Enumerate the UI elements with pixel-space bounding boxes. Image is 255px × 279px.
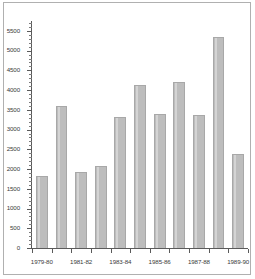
y-axis-minor-tick — [29, 23, 32, 24]
y-axis-tick-label: 3000 — [7, 126, 20, 132]
y-axis-minor-tick — [29, 94, 32, 95]
y-axis-tick — [27, 189, 32, 190]
y-axis-minor-tick — [29, 165, 32, 166]
bar — [114, 117, 126, 248]
y-axis-minor-tick — [29, 82, 32, 83]
y-axis-tick-label: 5000 — [7, 47, 20, 53]
bar — [193, 115, 205, 248]
x-axis-tick — [52, 249, 53, 253]
y-axis-minor-tick — [29, 74, 32, 75]
y-axis-minor-tick — [29, 181, 32, 182]
bar — [232, 154, 244, 248]
x-axis-tick-label: 1981-82 — [61, 259, 101, 265]
y-axis-tick — [27, 209, 32, 210]
y-axis-tick-label: 1000 — [7, 205, 20, 211]
x-axis-tick — [71, 249, 72, 253]
y-axis-minor-tick — [29, 232, 32, 233]
y-axis-minor-tick — [29, 216, 32, 217]
y-axis-minor-tick — [29, 197, 32, 198]
y-axis-minor-tick — [29, 145, 32, 146]
y-axis-minor-tick — [29, 66, 32, 67]
x-axis-tick — [169, 249, 170, 253]
y-axis-minor-tick — [29, 161, 32, 162]
y-axis-tick-label: 4500 — [7, 67, 20, 73]
y-axis-tick-label: 2000 — [7, 166, 20, 172]
y-axis-minor-tick — [29, 201, 32, 202]
y-axis-minor-tick — [29, 59, 32, 60]
y-axis-minor-tick — [29, 55, 32, 56]
y-axis-tick — [27, 130, 32, 131]
y-axis-minor-tick — [29, 98, 32, 99]
x-axis-tick — [91, 249, 92, 253]
y-axis-minor-tick — [29, 43, 32, 44]
bar — [134, 85, 146, 248]
y-axis-minor-tick — [29, 114, 32, 115]
y-axis-minor-tick — [29, 137, 32, 138]
y-axis-minor-tick — [29, 224, 32, 225]
y-axis-tick — [27, 228, 32, 229]
x-axis-tick — [209, 249, 210, 253]
x-axis-tick — [32, 249, 33, 253]
y-axis-minor-tick — [29, 205, 32, 206]
x-axis-line — [31, 248, 248, 249]
y-axis-tick — [27, 169, 32, 170]
y-axis-tick — [27, 149, 32, 150]
y-axis-minor-tick — [29, 62, 32, 63]
y-axis-minor-tick — [29, 185, 32, 186]
y-axis-tick-label: 500 — [10, 225, 20, 231]
x-axis-tick — [111, 249, 112, 253]
y-axis-minor-tick — [29, 212, 32, 213]
y-axis-minor-tick — [29, 27, 32, 28]
y-axis-minor-tick — [29, 47, 32, 48]
y-axis-minor-tick — [29, 173, 32, 174]
x-axis-tick-label: 1979-80 — [22, 259, 62, 265]
bar-chart-plot-area: 0500100015002000250030003500400045005000… — [4, 3, 252, 276]
y-axis-minor-tick — [29, 78, 32, 79]
y-axis-minor-tick — [29, 134, 32, 135]
y-axis-tick — [27, 31, 32, 32]
y-axis-minor-tick — [29, 240, 32, 241]
bar — [154, 114, 166, 248]
y-axis-minor-tick — [29, 122, 32, 123]
x-axis-tick — [189, 249, 190, 253]
bar — [213, 37, 225, 248]
y-axis-minor-tick — [29, 157, 32, 158]
y-axis-minor-tick — [29, 102, 32, 103]
y-axis-minor-tick — [29, 39, 32, 40]
x-axis-tick-label: 1983-84 — [100, 259, 140, 265]
x-axis-tick — [130, 249, 131, 253]
x-axis-tick-label: 1985-86 — [140, 259, 180, 265]
y-axis-minor-tick — [29, 236, 32, 237]
x-axis-tick-label: 1987-88 — [179, 259, 219, 265]
y-axis-minor-tick — [29, 193, 32, 194]
y-axis-minor-tick — [29, 35, 32, 36]
y-axis-minor-tick — [29, 126, 32, 127]
y-axis-tick — [27, 90, 32, 91]
y-axis-tick-label: 3500 — [7, 107, 20, 113]
y-axis-tick-label: 1500 — [7, 186, 20, 192]
y-axis-minor-tick — [29, 118, 32, 119]
bar — [36, 176, 48, 248]
x-axis-tick — [228, 249, 229, 253]
y-axis-tick-label: 4000 — [7, 87, 20, 93]
y-axis-tick — [27, 70, 32, 71]
y-axis-tick — [27, 110, 32, 111]
bar — [56, 106, 68, 248]
bar — [95, 166, 107, 248]
y-axis-minor-tick — [29, 220, 32, 221]
x-axis-tick-label: 1989-90 — [218, 259, 255, 265]
y-axis-minor-tick — [29, 106, 32, 107]
y-axis-minor-tick — [29, 153, 32, 154]
y-axis-minor-tick — [29, 177, 32, 178]
y-axis-tick — [27, 51, 32, 52]
y-axis-minor-tick — [29, 86, 32, 87]
bar — [75, 172, 87, 248]
bar — [173, 82, 185, 248]
y-axis-minor-tick — [29, 244, 32, 245]
chart-frame: 0500100015002000250030003500400045005000… — [3, 2, 251, 275]
y-axis-tick-label: 5500 — [7, 28, 20, 34]
y-axis-tick-label: 0 — [17, 245, 20, 251]
x-axis-tick — [248, 249, 249, 253]
y-axis-tick-label: 2500 — [7, 146, 20, 152]
x-axis-tick — [150, 249, 151, 253]
